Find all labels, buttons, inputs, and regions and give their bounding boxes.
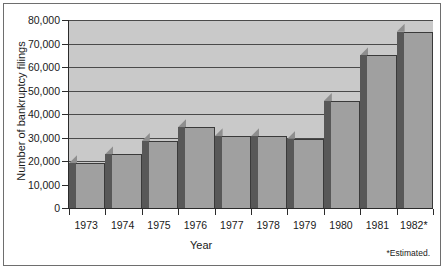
x-axis-tick-mark — [105, 209, 106, 215]
bar-top-face — [215, 128, 223, 136]
x-axis-tick-mark — [360, 209, 361, 215]
bar-1979 — [287, 131, 323, 208]
bar-front-face — [367, 55, 396, 208]
y-axis-tick-label: 20,000 — [2, 155, 60, 167]
bar-1975 — [142, 133, 178, 208]
y-axis-tick-label: 80,000 — [2, 14, 60, 26]
bar-1977 — [215, 128, 251, 208]
bar-front-face — [404, 32, 433, 208]
bar-1974 — [105, 146, 141, 208]
bar-top-face — [397, 24, 405, 32]
bar-1982-estimated — [397, 24, 433, 208]
x-axis-tick-mark — [433, 209, 434, 215]
bar-top-face — [324, 93, 332, 101]
x-axis-tick-mark — [397, 209, 398, 215]
y-axis-tick-label: 10,000 — [2, 179, 60, 191]
bankruptcy-filings-bar-chart: Number of bankruptcy filings 80,00070,00… — [0, 0, 444, 272]
bar-front-face — [294, 139, 323, 208]
x-axis-tick-mark — [142, 209, 143, 215]
bar-1981 — [360, 47, 396, 208]
y-axis-tick-label: 30,000 — [2, 132, 60, 144]
x-axis-tick-label: 1982* — [387, 219, 441, 231]
y-axis-tick-label: 40,000 — [2, 108, 60, 120]
y-axis-tick-label: 50,000 — [2, 85, 60, 97]
bar-top-face — [105, 146, 113, 154]
bar-1978 — [251, 128, 287, 208]
bar-top-face — [69, 155, 77, 163]
x-axis-tick-mark — [178, 209, 179, 215]
bar-top-face — [287, 131, 295, 139]
x-axis-title: Year — [190, 239, 212, 251]
y-axis-title: Number of bankruptcy filings — [15, 21, 27, 201]
bar-top-face — [360, 47, 368, 55]
bar-top-face — [251, 128, 259, 136]
bar-front-face — [258, 136, 287, 208]
footnote-estimated: *Estimated. — [387, 248, 430, 258]
bar-top-face — [178, 119, 186, 127]
y-axis-tick-label: 70,000 — [2, 38, 60, 50]
bar-1976 — [178, 119, 214, 208]
bar-1980 — [324, 93, 360, 208]
bar-front-face — [112, 154, 141, 208]
y-axis-tick-label: 0 — [2, 202, 60, 214]
bar-front-face — [76, 163, 105, 208]
bar-top-face — [142, 133, 150, 141]
x-axis-tick-mark — [324, 209, 325, 215]
bar-front-face — [222, 136, 251, 208]
bar-front-face — [185, 127, 214, 208]
bar-front-face — [331, 101, 360, 208]
x-axis-tick-mark — [251, 209, 252, 215]
x-axis-tick-mark — [69, 209, 70, 215]
bar-front-face — [149, 141, 178, 208]
bar-series — [69, 20, 433, 208]
bar-1973 — [69, 155, 105, 208]
y-axis-tick-label: 60,000 — [2, 61, 60, 73]
x-axis-tick-mark — [215, 209, 216, 215]
plot-area — [68, 20, 433, 209]
x-axis-tick-mark — [287, 209, 288, 215]
